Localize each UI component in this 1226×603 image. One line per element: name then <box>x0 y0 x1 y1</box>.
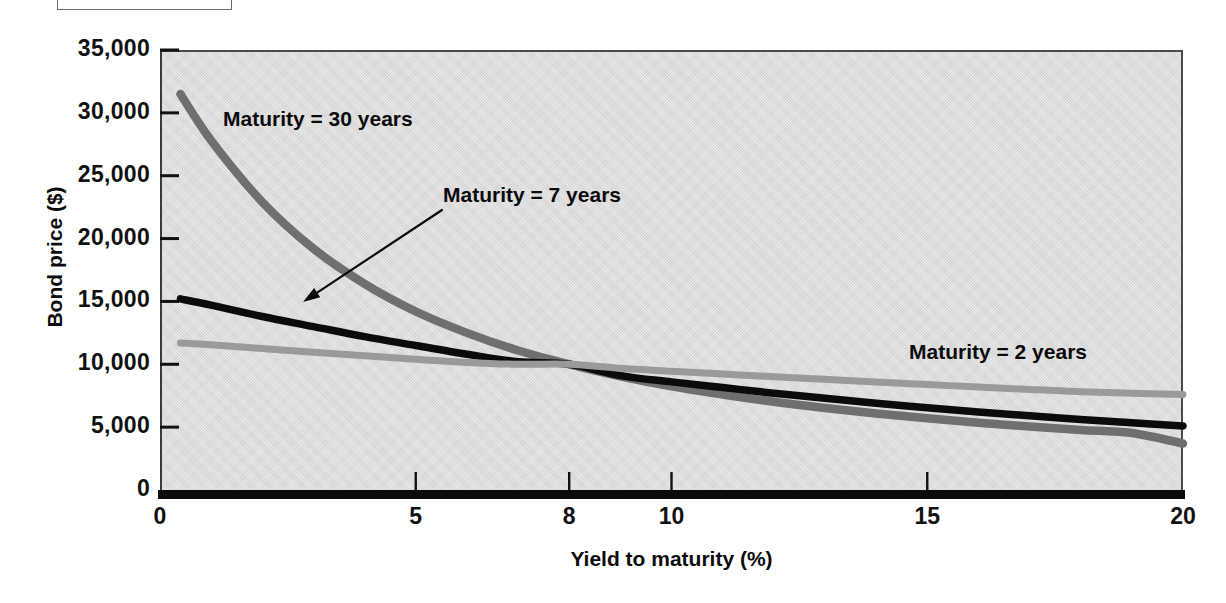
x-axis-title: Yield to maturity (%) <box>160 547 1183 571</box>
x-axis-tick-labels: 058101520 <box>0 0 1226 603</box>
series-label-7-years: Maturity = 7 years <box>443 183 621 207</box>
bond-price-vs-yield-chart: 35,00030,00025,00020,00015,00010,0005,00… <box>0 0 1226 603</box>
y-axis-title: Bond price ($) <box>43 147 67 367</box>
x-tick-label: 10 <box>632 503 712 530</box>
series-label-2-years: Maturity = 2 years <box>909 340 1087 364</box>
x-tick-label: 5 <box>376 503 456 530</box>
x-tick-label: 0 <box>120 503 200 530</box>
x-tick-label: 20 <box>1143 503 1223 530</box>
x-tick-label: 15 <box>887 503 967 530</box>
series-label-30-years: Maturity = 30 years <box>223 107 413 131</box>
x-tick-label: 8 <box>529 503 609 530</box>
